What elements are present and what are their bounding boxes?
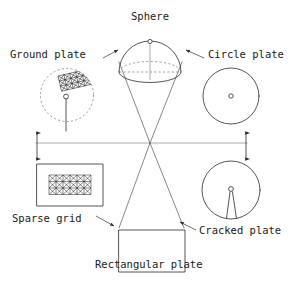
node-cracked-plate[interactable] [202, 161, 260, 219]
sphere-apex-node [148, 39, 152, 43]
spoke-upper-left [119, 62, 150, 143]
label-circle-plate: Circle plate [208, 48, 284, 60]
label-sparse-grid: Sparse grid [12, 212, 82, 224]
circle-plate-center-node [229, 94, 233, 98]
sparse-grid-mesh [49, 175, 91, 195]
connector-arrows [37, 133, 246, 159]
leader-ground-plate [103, 50, 118, 58]
label-cracked-plate: Cracked plate [199, 224, 281, 236]
geometry-diagram: Sphere Ground plate Circle plate [0, 0, 298, 285]
leader-circle-plate [186, 50, 204, 58]
cracked-plate-center-node [229, 187, 234, 192]
spoke-lower-right [150, 143, 184, 228]
ground-plate-mesh-patch [58, 69, 91, 91]
label-rectangular-plate: Rectangular plate [95, 258, 202, 270]
cracked-plate-crack-wedge [227, 192, 237, 219]
spoke-upper-right [150, 62, 182, 143]
node-sphere[interactable] [119, 39, 181, 82]
label-sphere: Sphere [131, 10, 169, 22]
node-sparse-grid[interactable] [37, 164, 103, 206]
node-ground-plate[interactable] [41, 69, 94, 132]
hub-spokes [36, 62, 247, 228]
node-circle-plate[interactable] [203, 68, 259, 124]
spoke-lower-left [119, 143, 150, 228]
label-ground-plate: Ground plate [10, 48, 86, 60]
leader-sparse-grid [96, 216, 114, 226]
leader-cracked-plate [180, 222, 196, 230]
diagram-canvas: Sphere Ground plate Circle plate [0, 0, 298, 285]
ground-plate-feed-node [64, 94, 69, 99]
